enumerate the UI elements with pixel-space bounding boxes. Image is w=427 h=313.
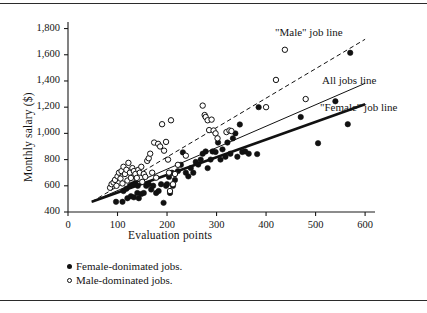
point-female: [230, 136, 235, 141]
figure-container: Monthly salary ($) Evaluation points 400…: [0, 0, 427, 313]
point-male: [168, 118, 173, 123]
point-male: [143, 174, 148, 179]
open-circle-icon: [62, 278, 76, 283]
x-tick-label: 400: [246, 219, 286, 230]
point-female: [348, 50, 353, 55]
point-male: [139, 164, 144, 169]
legend-marker-glyph: [67, 264, 72, 269]
point-male: [282, 47, 287, 52]
y-tick-label: 600: [16, 179, 60, 190]
point-male: [114, 183, 119, 188]
point-female: [225, 140, 230, 145]
point-male: [163, 139, 168, 144]
point-female: [228, 151, 233, 156]
y-tick-label: 800: [16, 153, 60, 164]
legend-item-label: Male-dominated jobs.: [76, 273, 173, 287]
point-female: [218, 157, 223, 162]
legend-item: Female-donimated jobs.: [62, 259, 182, 273]
point-male: [165, 157, 170, 162]
point-male: [263, 104, 268, 109]
point-male: [161, 148, 166, 153]
x-axis-title: Evaluation points: [128, 229, 212, 241]
point-female: [315, 141, 320, 146]
point-male: [200, 103, 205, 108]
point-female: [254, 151, 259, 156]
point-female: [298, 114, 303, 119]
x-tick-label: 200: [147, 219, 187, 230]
point-female: [186, 174, 191, 179]
y-tick-label: 1,200: [16, 100, 60, 111]
point-female: [141, 190, 146, 195]
point-male: [134, 175, 139, 180]
point-female: [198, 157, 203, 162]
point-female: [237, 122, 242, 127]
point-female: [208, 157, 213, 162]
y-tick-label: 1,400: [16, 74, 60, 85]
trend-line-label: "Male" job line: [275, 26, 343, 38]
point-male: [209, 117, 214, 122]
point-male: [170, 182, 175, 187]
point-male: [140, 179, 145, 184]
point-female: [161, 200, 166, 205]
x-tick-label: 600: [345, 219, 385, 230]
point-female: [223, 154, 228, 159]
point-male: [215, 136, 220, 141]
point-female: [203, 149, 208, 154]
y-tick-label: 1,800: [16, 22, 60, 33]
point-female: [150, 183, 155, 188]
point-female: [235, 154, 240, 159]
trend-line-label: "Female" job line: [320, 101, 397, 113]
trend-line-label: All jobs line: [322, 74, 376, 86]
point-male: [153, 175, 158, 180]
point-male: [303, 96, 308, 101]
x-tick-label: 500: [296, 219, 336, 230]
y-tick-label: 1,000: [16, 126, 60, 137]
point-female: [256, 104, 261, 109]
point-male: [166, 170, 171, 175]
point-male: [149, 170, 154, 175]
data-points: [107, 47, 353, 205]
point-female: [135, 183, 140, 188]
point-male: [147, 151, 152, 156]
point-female: [164, 182, 169, 187]
point-female: [345, 122, 350, 127]
legend: Female-donimated jobs.Male-dominated job…: [62, 259, 182, 287]
point-female: [191, 170, 196, 175]
point-female: [213, 149, 218, 154]
point-male: [273, 77, 278, 82]
point-female: [220, 147, 225, 152]
point-male: [126, 160, 131, 165]
point-male: [175, 162, 180, 167]
point-female: [156, 188, 161, 193]
legend-item-label: Female-donimated jobs.: [76, 259, 182, 273]
point-male: [167, 188, 172, 193]
point-female: [113, 199, 118, 204]
point-male: [172, 171, 177, 176]
point-female: [120, 199, 125, 204]
point-female: [246, 151, 251, 156]
x-tick-label: 0: [48, 219, 88, 230]
filled-circle-icon: [62, 264, 76, 269]
x-tick-label: 300: [197, 219, 237, 230]
legend-item: Male-dominated jobs.: [62, 273, 182, 287]
y-tick-label: 1,600: [16, 48, 60, 59]
point-female: [158, 182, 163, 187]
point-female: [205, 165, 210, 170]
point-male: [128, 175, 133, 180]
point-male: [183, 153, 188, 158]
y-tick-label: 400: [16, 205, 60, 216]
point-female: [196, 162, 201, 167]
x-tick-label: 100: [98, 219, 138, 230]
point-male: [159, 122, 164, 127]
legend-marker-glyph: [67, 278, 72, 283]
point-male: [229, 128, 234, 133]
point-male: [120, 181, 125, 186]
